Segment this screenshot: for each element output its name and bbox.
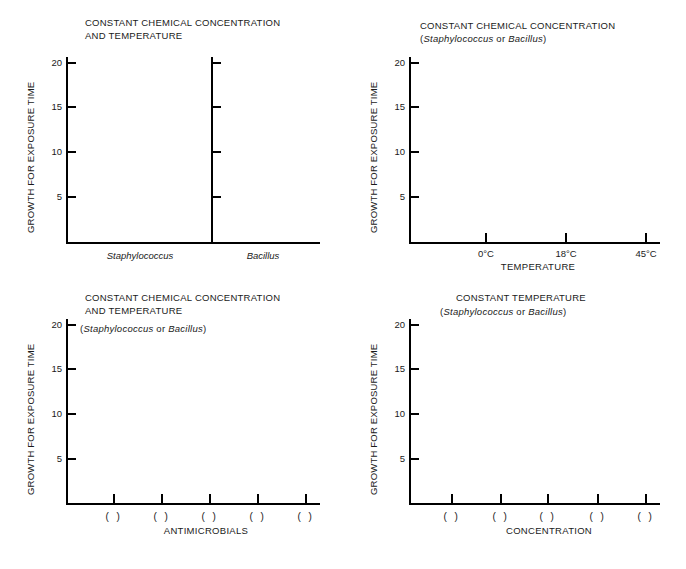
y-tick-label-5: 5: [383, 191, 405, 202]
panel-title-line1: CONSTANT CHEMICAL CONCENTRATION: [420, 20, 615, 33]
chart-panel-bottom-right: CONSTANT TEMPERATURE (Staphylococcus or …: [343, 285, 686, 569]
subtitle-close-paren: ): [543, 33, 546, 44]
y-tick-label-15: 15: [40, 363, 62, 374]
panel-title-line1: CONSTANT CHEMICAL CONCENTRATION: [85, 17, 280, 30]
x-slot-label-3: ( ): [190, 511, 230, 522]
panel-title-line1: CONSTANT TEMPERATURE: [456, 292, 586, 305]
x-axis-title: CONCENTRATION: [469, 525, 629, 536]
category-label-staphylococcus: Staphylococcus: [85, 250, 195, 261]
x-tick-slot-4: [597, 494, 599, 503]
y-tick-10: [410, 413, 419, 415]
subtitle-conjunction: or: [513, 306, 528, 317]
y-tick-10: [67, 151, 76, 153]
x-tick-slot-2: [500, 494, 502, 503]
y-tick-label-5: 5: [40, 191, 62, 202]
y-tick-10: [67, 413, 76, 415]
chart-panel-top-left: CONSTANT CHEMICAL CONCENTRATION AND TEMP…: [0, 0, 343, 284]
subtitle-taxon-1: Staphylococcus: [423, 33, 493, 44]
subtitle-taxon-1: Staphylococcus: [83, 323, 153, 334]
x-tick-label-45c: 45°C: [621, 248, 671, 259]
panel-title-bottom-right: CONSTANT TEMPERATURE: [456, 292, 586, 305]
x-axis-title: TEMPERATURE: [463, 261, 613, 272]
x-slot-label-2: ( ): [481, 511, 521, 522]
x-slot-label-4: ( ): [238, 511, 278, 522]
chart-panel-top-right: CONSTANT CHEMICAL CONCENTRATION (Staphyl…: [343, 0, 686, 284]
subtitle-close-paren: ): [563, 306, 566, 317]
x-axis-line: [409, 242, 660, 244]
y-axis-line: [409, 319, 411, 505]
x-slot-label-5: ( ): [626, 511, 666, 522]
y-tick-label-15: 15: [383, 101, 405, 112]
y-tick-label-10: 10: [40, 408, 62, 419]
y-tick-label-10: 10: [383, 408, 405, 419]
panel-title-top-left: CONSTANT CHEMICAL CONCENTRATION AND TEMP…: [85, 17, 280, 42]
y-tick-20: [410, 324, 419, 326]
y-axis-label: GROWTH FOR EXPOSURE TIME: [25, 82, 36, 233]
x-tick-slot-1: [451, 494, 453, 503]
x-axis-line: [66, 503, 320, 505]
y-tick-label-20: 20: [383, 319, 405, 330]
panel-subtitle-wrap: (Staphylococcus or Bacillus): [80, 323, 206, 336]
x-tick-label-0c: 0°C: [461, 248, 511, 259]
y-tick-20: [67, 324, 76, 326]
x-tick-label-18c: 18°C: [541, 248, 591, 259]
y-tick-label-15: 15: [383, 363, 405, 374]
x-axis-title: ANTIMICROBIALS: [126, 525, 286, 536]
subtitle-taxon-1: Staphylococcus: [443, 306, 513, 317]
x-tick-slot-4: [257, 494, 259, 503]
x-tick-slot-5: [645, 494, 647, 503]
x-tick-slot-3: [209, 494, 211, 503]
y-tick-label-20: 20: [40, 319, 62, 330]
panel-subtitle: (Staphylococcus or Bacillus): [440, 306, 566, 319]
x-tick-45c: [645, 233, 647, 242]
y-tick-15: [67, 106, 76, 108]
panel-title-bottom-left: CONSTANT CHEMICAL CONCENTRATION AND TEMP…: [85, 292, 280, 317]
y-tick-5: [67, 458, 76, 460]
y-axis-label: GROWTH FOR EXPOSURE TIME: [368, 82, 379, 233]
y-tick-15: [67, 368, 76, 370]
y-tick-label-10: 10: [383, 146, 405, 157]
panel-title-line1: CONSTANT CHEMICAL CONCENTRATION: [85, 292, 280, 305]
secondary-y-tick-20: [212, 62, 221, 64]
x-slot-label-5: ( ): [286, 511, 326, 522]
panel-title-line2: AND TEMPERATURE: [85, 305, 280, 318]
y-tick-5: [410, 196, 419, 198]
x-tick-slot-2: [161, 494, 163, 503]
x-slot-label-2: ( ): [142, 511, 182, 522]
x-slot-label-3: ( ): [528, 511, 568, 522]
secondary-y-tick-15: [212, 106, 221, 108]
x-tick-slot-5: [305, 494, 307, 503]
subtitle-conjunction: or: [153, 323, 168, 334]
y-tick-label-15: 15: [40, 101, 62, 112]
category-label-bacillus: Bacillus: [218, 250, 308, 261]
subtitle-close-paren: ): [203, 323, 206, 334]
y-tick-20: [410, 62, 419, 64]
y-tick-5: [410, 458, 419, 460]
secondary-y-tick-5: [212, 196, 221, 198]
y-tick-label-10: 10: [40, 146, 62, 157]
panel-subtitle: (Staphylococcus or Bacillus): [420, 33, 615, 46]
x-axis-line: [409, 503, 660, 505]
subtitle-taxon-2: Bacillus: [528, 306, 563, 317]
x-axis-line: [66, 242, 320, 244]
panel-subtitle: (Staphylococcus or Bacillus): [80, 323, 206, 336]
y-tick-label-5: 5: [383, 453, 405, 464]
chart-panel-bottom-left: CONSTANT CHEMICAL CONCENTRATION AND TEMP…: [0, 285, 343, 569]
y-axis-label: GROWTH FOR EXPOSURE TIME: [25, 344, 36, 495]
x-tick-18c: [565, 233, 567, 242]
secondary-y-tick-10: [212, 151, 221, 153]
subtitle-taxon-2: Bacillus: [168, 323, 203, 334]
y-axis-line: [66, 319, 68, 505]
figure-canvas: CONSTANT CHEMICAL CONCENTRATION AND TEMP…: [0, 0, 686, 569]
x-slot-label-1: ( ): [94, 511, 134, 522]
y-tick-label-20: 20: [383, 57, 405, 68]
panel-subtitle-wrap: (Staphylococcus or Bacillus): [440, 306, 566, 319]
y-tick-10: [410, 151, 419, 153]
panel-title-top-right: CONSTANT CHEMICAL CONCENTRATION (Staphyl…: [420, 20, 615, 45]
x-slot-label-4: ( ): [578, 511, 618, 522]
y-tick-15: [410, 106, 419, 108]
panel-title-line2: AND TEMPERATURE: [85, 30, 280, 43]
x-tick-slot-1: [113, 494, 115, 503]
y-tick-20: [67, 62, 76, 64]
x-tick-0c: [485, 233, 487, 242]
